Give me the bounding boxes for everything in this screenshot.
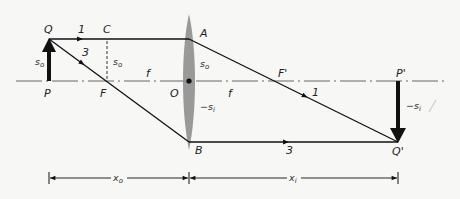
label-A: A [199,27,208,40]
label-Q: Q [44,23,53,36]
lens-center-dot [186,78,191,83]
diagram-canvas: Q P C F O A B F' P' Q' 1 3 1 3 f f so so… [0,0,460,199]
label-xo: xo [112,172,123,185]
label-F: F [100,87,107,100]
label-so-C: so [113,56,122,69]
label-B: B [195,144,203,157]
label-ray-3: 3 [82,46,89,59]
label-ray-1-after: 1 [312,86,319,99]
lens-ray-diagram: Q P C F O A B F' P' Q' 1 3 1 3 f f so so… [0,0,460,199]
label-Q-prime: Q' [392,145,404,158]
label-so-object: so [35,56,44,69]
label-P: P [44,87,51,100]
label-f-right: f [228,87,234,100]
stray-mark [429,100,436,112]
label-C: C [103,23,111,36]
image-arrow-head [390,128,406,143]
label-si-lens: −si [200,101,215,114]
label-ray-1: 1 [78,23,85,36]
label-F-prime: F' [278,67,287,80]
label-xi: xi [288,172,297,185]
label-O: O [170,87,179,100]
label-ray-3-after: 3 [286,144,293,157]
label-f-left: f [146,67,152,80]
label-si-image: −si [406,100,421,113]
object-arrow-head [42,38,56,52]
label-so-lens: so [200,58,209,71]
label-P-prime: P' [396,67,406,80]
